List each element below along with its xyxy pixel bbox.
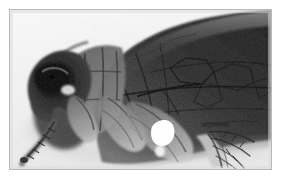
image-page: Flea (Siphonaptera) lateral view photomi…: [0, 0, 285, 183]
film-grain: [10, 10, 271, 169]
photomicrograph-canvas: [10, 10, 271, 169]
photo-frame: [9, 9, 272, 170]
flea-photomicrograph: [10, 10, 271, 169]
